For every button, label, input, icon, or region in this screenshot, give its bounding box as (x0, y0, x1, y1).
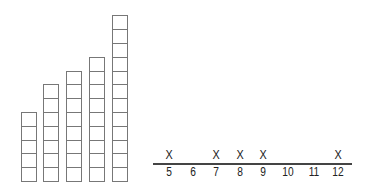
unit-cube (44, 168, 58, 182)
unit-cube (44, 85, 58, 99)
unit-cube (44, 141, 58, 155)
unit-cube (67, 99, 81, 113)
tick-label: 5 (159, 165, 179, 179)
cube-tower (66, 71, 82, 182)
tick-label: 7 (206, 165, 226, 179)
cube-tower (21, 112, 37, 182)
unit-cube (90, 113, 104, 127)
x-mark: X (209, 148, 223, 162)
x-mark: X (331, 148, 345, 162)
unit-cube (113, 58, 127, 72)
tick-label: 8 (230, 165, 250, 179)
tick-label: 9 (253, 165, 273, 179)
unit-cube (67, 127, 81, 141)
cube-towers (0, 0, 140, 190)
cube-tower (89, 57, 105, 182)
unit-cube (113, 16, 127, 30)
unit-cube (113, 72, 127, 86)
unit-cube (90, 141, 104, 155)
unit-cube (22, 141, 36, 155)
unit-cube (90, 168, 104, 182)
unit-cube (22, 127, 36, 141)
unit-cube (90, 58, 104, 72)
unit-cube (67, 72, 81, 86)
unit-cube (90, 99, 104, 113)
x-mark: X (233, 148, 247, 162)
unit-cube (44, 154, 58, 168)
unit-cube (113, 127, 127, 141)
unit-cube (22, 154, 36, 168)
unit-cube (90, 85, 104, 99)
unit-cube (67, 141, 81, 155)
unit-cube (113, 99, 127, 113)
cube-tower (112, 15, 128, 182)
x-mark: X (256, 148, 270, 162)
unit-cube (90, 154, 104, 168)
unit-cube (44, 113, 58, 127)
unit-cube (113, 168, 127, 182)
unit-cube (22, 113, 36, 127)
unit-cube (44, 127, 58, 141)
tick-label: 6 (183, 165, 203, 179)
cube-tower (43, 84, 59, 182)
unit-cube (22, 168, 36, 182)
unit-cube (113, 44, 127, 58)
unit-cube (44, 99, 58, 113)
unit-cube (90, 72, 104, 86)
tick-label: 11 (304, 165, 324, 179)
unit-cube (113, 113, 127, 127)
unit-cube (113, 30, 127, 44)
unit-cube (67, 85, 81, 99)
unit-cube (67, 168, 81, 182)
x-mark: X (162, 148, 176, 162)
unit-cube (67, 154, 81, 168)
unit-cube (67, 113, 81, 127)
tick-label: 12 (328, 165, 348, 179)
unit-cube (113, 85, 127, 99)
unit-cube (113, 154, 127, 168)
unit-cube (113, 141, 127, 155)
tick-label: 10 (278, 165, 298, 179)
unit-cube (90, 127, 104, 141)
